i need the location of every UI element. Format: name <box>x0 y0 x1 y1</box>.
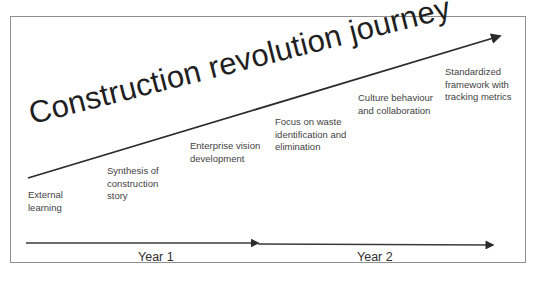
year-2-label: Year 2 <box>357 250 393 264</box>
step-culture-behaviour: Culture behaviour and collaboration <box>358 92 433 117</box>
step-external-learning: External learning <box>28 189 63 214</box>
step-standardized-framework: Standardized framework with tracking met… <box>445 66 512 104</box>
step-synthesis-story: Synthesis of construction story <box>107 165 159 203</box>
step-enterprise-vision: Enterprise vision development <box>190 140 260 165</box>
step-waste-focus: Focus on waste identification and elimin… <box>275 116 346 154</box>
year-1-label: Year 1 <box>138 250 174 264</box>
year-2-arrow <box>258 244 493 245</box>
